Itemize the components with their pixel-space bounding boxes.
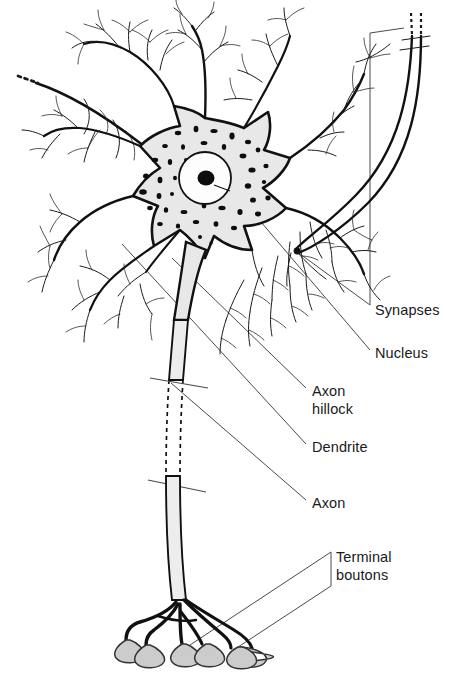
neuron-diagram-figure: Synapses Nucleus Axon hillock Dendrite A… bbox=[0, 0, 461, 682]
incoming-axons-right bbox=[287, 13, 430, 286]
dendrite-trunk-upper-left-b bbox=[44, 128, 140, 146]
terminal-branch-2 bbox=[146, 604, 178, 645]
synaptic-bouton-right bbox=[294, 248, 301, 255]
label-dendrite: Dendrite bbox=[312, 439, 368, 455]
incoming-axon-right-crossmark-1 bbox=[402, 36, 430, 40]
terminal-branch-3 bbox=[180, 604, 182, 644]
incoming-axon-right-crossmark-2 bbox=[400, 46, 429, 50]
nucleolus bbox=[198, 171, 215, 186]
axon-leader-line bbox=[171, 383, 306, 500]
terminal-branches-group bbox=[115, 600, 274, 669]
dendrite-branches-center bbox=[166, 0, 304, 100]
labels-group: Synapses Nucleus Axon hillock Dendrite A… bbox=[312, 302, 439, 583]
dendrite-trunk-left-lower bbox=[54, 196, 133, 260]
label-synapses: Synapses bbox=[375, 302, 439, 318]
dendrite-trunk-upper-left bbox=[84, 42, 174, 106]
dendrite-trunk-upper-center bbox=[192, 26, 206, 118]
axon-shaft-upper bbox=[169, 320, 188, 380]
incoming-axon-left-branch-4 bbox=[100, 110, 108, 134]
dendrite-leader-line bbox=[122, 244, 306, 444]
label-terminal-boutons-line2: boutons bbox=[336, 567, 388, 583]
incoming-axon-right-collateral bbox=[356, 44, 390, 62]
axon-shaft-dashed-right bbox=[180, 380, 183, 476]
label-axon-hillock-line2: hillock bbox=[312, 401, 354, 417]
axon-hillock bbox=[174, 242, 206, 320]
terminal-boutons-leader-upper bbox=[190, 552, 331, 645]
label-terminal-boutons-line1: Terminal bbox=[336, 549, 392, 565]
synapses-bracket-lower-leader bbox=[296, 251, 370, 305]
axon-group bbox=[148, 242, 208, 600]
terminal-branch-4 bbox=[181, 612, 202, 644]
label-axon: Axon bbox=[312, 495, 345, 511]
soma-group bbox=[133, 106, 290, 258]
synapses-bracket-upper-leader bbox=[370, 28, 404, 33]
incoming-axon-right-dashed-end-a bbox=[411, 13, 412, 35]
neuron-illustration: Synapses Nucleus Axon hillock Dendrite A… bbox=[0, 0, 461, 682]
incoming-axon-left-dotted-tail bbox=[18, 76, 38, 83]
axon-shaft-lower bbox=[166, 476, 186, 600]
terminal-bouton bbox=[195, 644, 225, 667]
label-nucleus: Nucleus bbox=[375, 345, 428, 361]
axon-shaft-dashed-left bbox=[166, 380, 169, 476]
label-axon-hillock-line1: Axon bbox=[312, 383, 345, 399]
